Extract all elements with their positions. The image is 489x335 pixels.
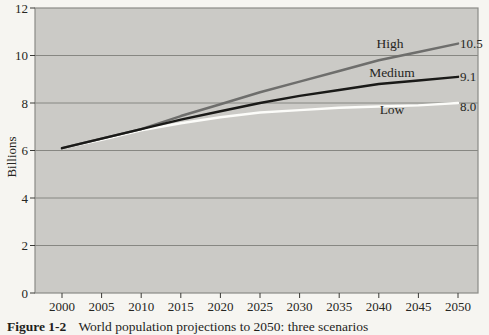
series-label-high: High xyxy=(377,36,404,51)
x-tick-label: 2040 xyxy=(366,299,392,314)
y-tick-label: 6 xyxy=(22,143,29,158)
x-tick-label: 2020 xyxy=(207,299,233,314)
x-tick-label: 2025 xyxy=(247,299,273,314)
x-tick-label: 2005 xyxy=(89,299,115,314)
y-tick-label: 4 xyxy=(22,191,29,206)
x-tick-label: 2000 xyxy=(49,299,75,314)
y-tick-label: 0 xyxy=(22,286,29,301)
series-value-low: 8.0 xyxy=(460,99,476,114)
y-tick-label: 8 xyxy=(22,96,29,111)
y-tick-label: 2 xyxy=(22,238,29,253)
x-tick-label: 2045 xyxy=(405,299,431,314)
series-value-medium: 9.1 xyxy=(460,69,476,84)
x-tick-label: 2030 xyxy=(287,299,313,314)
x-tick-label: 2015 xyxy=(168,299,194,314)
x-tick-label: 2035 xyxy=(326,299,352,314)
y-tick-label: 10 xyxy=(15,48,28,63)
caption-label: Figure 1-2 xyxy=(7,319,66,334)
y-tick-label: 12 xyxy=(15,1,28,16)
y-axis-title: Billions xyxy=(4,136,19,177)
figure-caption: Figure 1-2World population projections t… xyxy=(7,319,368,335)
caption-text: World population projections to 2050: th… xyxy=(78,319,368,334)
x-tick-label: 2050 xyxy=(445,299,471,314)
series-label-medium: Medium xyxy=(369,65,415,80)
series-label-low: Low xyxy=(380,102,405,117)
series-value-high: 10.5 xyxy=(460,36,483,51)
x-tick-label: 2010 xyxy=(128,299,154,314)
